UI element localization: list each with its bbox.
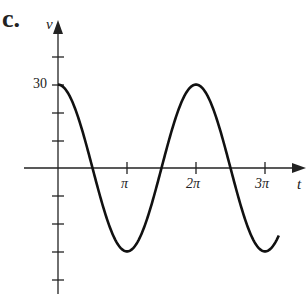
y-axis-arrow-icon (53, 20, 63, 34)
chart-plot (0, 0, 307, 299)
x-axis-arrow-icon (292, 163, 306, 173)
